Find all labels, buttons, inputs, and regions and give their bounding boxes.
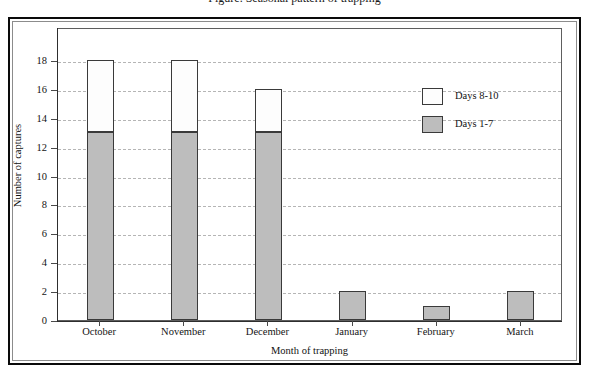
gridline — [58, 206, 561, 207]
x-tick-mark — [99, 321, 100, 326]
y-axis-title: Number of captures — [12, 106, 23, 226]
x-axis-line — [57, 321, 562, 322]
x-axis-title: Month of trapping — [57, 345, 562, 356]
bar-segment-days-1-7[interactable] — [87, 132, 114, 320]
bar-segment-days-8-10[interactable] — [171, 60, 198, 132]
legend-label: Days 1-7 — [455, 118, 493, 129]
gridline — [58, 293, 561, 294]
gridline — [58, 62, 561, 63]
bar-segment-days-1-7[interactable] — [339, 291, 366, 320]
y-tick-mark — [51, 148, 57, 149]
y-tick-label: 2 — [25, 287, 47, 297]
bar-segment-days-1-7[interactable] — [255, 132, 282, 320]
y-tick-label: 16 — [25, 85, 47, 95]
x-tick-mark — [436, 321, 437, 326]
chart-legend: Days 8-10Days 1-7 — [365, 88, 545, 144]
stacked-bar-chart: 024681012141618 OctoberNovemberDecemberJ… — [0, 0, 589, 374]
y-tick-label: 18 — [25, 56, 47, 66]
gridline — [58, 235, 561, 236]
y-tick-label: 8 — [25, 200, 47, 210]
legend-entry[interactable]: Days 8-10 — [365, 88, 545, 106]
y-tick-mark — [51, 234, 57, 235]
bar-group[interactable] — [255, 27, 282, 320]
bar-group[interactable] — [507, 27, 534, 320]
gridline — [58, 178, 561, 179]
bar-group[interactable] — [339, 27, 366, 320]
y-tick-label: 4 — [25, 258, 47, 268]
bar-segment-days-8-10[interactable] — [255, 89, 282, 132]
y-tick-label: 6 — [25, 229, 47, 239]
legend-label: Days 8-10 — [455, 90, 498, 101]
bar-group[interactable] — [171, 27, 198, 320]
y-tick-mark — [51, 205, 57, 206]
x-tick-mark — [352, 321, 353, 326]
bar-segment-days-8-10[interactable] — [87, 60, 114, 132]
legend-swatch — [422, 88, 443, 105]
y-tick-label: 14 — [25, 114, 47, 124]
gridline — [58, 264, 561, 265]
gridline — [58, 149, 561, 150]
bar-group[interactable] — [423, 27, 450, 320]
y-tick-mark — [51, 90, 57, 91]
y-tick-label: 12 — [25, 143, 47, 153]
y-tick-label: 0 — [25, 316, 47, 326]
y-tick-mark — [51, 119, 57, 120]
y-axis-line — [57, 28, 58, 321]
legend-entry[interactable]: Days 1-7 — [365, 116, 545, 134]
x-tick-mark — [267, 321, 268, 326]
bar-segment-days-1-7[interactable] — [171, 132, 198, 320]
bar-segment-days-1-7[interactable] — [507, 291, 534, 320]
legend-swatch — [422, 116, 443, 133]
x-tick-mark — [520, 321, 521, 326]
y-tick-mark — [51, 263, 57, 264]
y-tick-mark — [51, 177, 57, 178]
y-tick-mark — [51, 321, 57, 322]
plot-area — [57, 28, 562, 321]
y-tick-label: 10 — [25, 172, 47, 182]
bar-segment-days-1-7[interactable] — [423, 306, 450, 320]
x-tick-label: March — [470, 326, 570, 337]
x-tick-mark — [183, 321, 184, 326]
y-tick-mark — [51, 61, 57, 62]
bar-group[interactable] — [87, 27, 114, 320]
y-tick-mark — [51, 292, 57, 293]
